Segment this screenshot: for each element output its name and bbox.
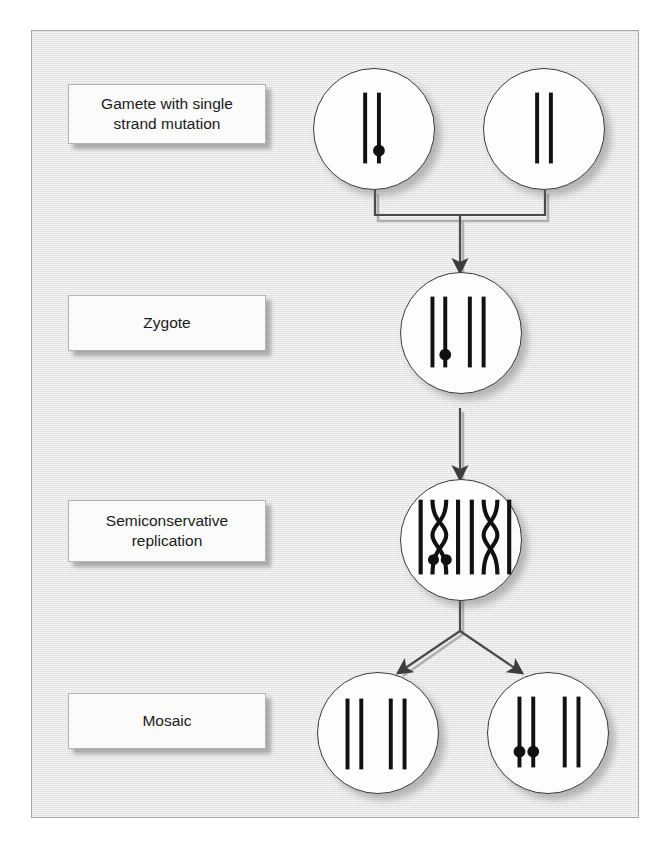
cell-gamete-paternal [483,68,605,190]
cell-gamete-maternal [313,68,435,190]
label-gamete-line1: Gamete with single [101,95,233,112]
mutation-dot [373,145,385,157]
mutation-dot [514,746,526,758]
mutation-dot [527,746,539,758]
label-mosaic: Mosaic [68,693,266,749]
cell-zygote [400,272,522,394]
chromosomes-replicating [401,480,521,600]
chromosomes-daughter-normal [318,673,438,793]
label-mosaic-text: Mosaic [142,711,191,731]
label-zygote-text: Zygote [143,313,190,333]
label-gamete-line2: strand mutation [114,115,221,132]
mutation-dot [428,554,439,565]
label-replication: Semiconservative replication [68,500,266,562]
chromosomes-zygote [401,273,521,393]
label-replication-line2: replication [132,532,203,549]
label-zygote: Zygote [68,295,266,351]
label-replication-line1: Semiconservative [106,512,228,529]
cell-daughter-normal [317,672,439,794]
diagram-root: Gamete with single strand mutation Zygot… [0,0,670,845]
chromosomes-daughter-mutant [488,673,608,793]
cell-replicating [400,479,522,601]
mutation-dot [439,349,451,361]
cell-daughter-mutant [487,672,609,794]
mutation-dot [441,554,452,565]
chromosomes-gamete-paternal [484,69,604,189]
label-gamete: Gamete with single strand mutation [68,84,266,144]
chromosomes-gamete-maternal [314,69,434,189]
